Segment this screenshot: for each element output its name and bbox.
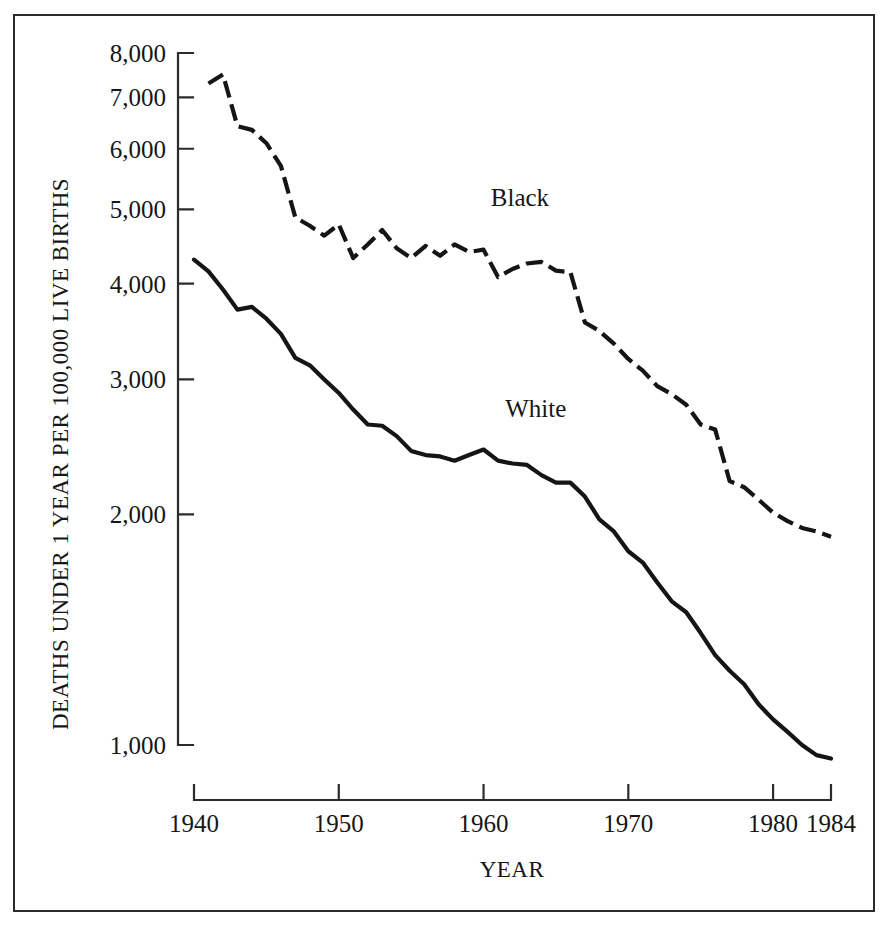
x-axis-tick-labels: 194019501960197019801984: [169, 810, 857, 837]
y-axis: 1,0002,0003,0004,0005,0006,0007,0008,000: [110, 40, 193, 759]
x-tick-label: 1940: [169, 810, 219, 837]
x-tick-label: 1950: [314, 810, 364, 837]
y-tick-label: 2,000: [110, 501, 166, 528]
y-tick-label: 1,000: [110, 732, 166, 759]
y-tick-label: 8,000: [110, 40, 166, 67]
x-tick-label: 1970: [603, 810, 653, 837]
y-tick-label: 5,000: [110, 196, 166, 223]
y-tick-label: 6,000: [110, 136, 166, 163]
x-tick-label: 1984: [806, 810, 857, 837]
y-tick-label: 4,000: [110, 271, 166, 298]
infant-mortality-line-chart: 1,0002,0003,0004,0005,0006,0007,0008,000…: [0, 0, 888, 926]
series-label-white: White: [505, 395, 566, 422]
x-axis-title: YEAR: [480, 857, 545, 882]
y-axis-tick-labels: 1,0002,0003,0004,0005,0006,0007,0008,000: [110, 40, 166, 759]
x-axis-line: [194, 785, 831, 800]
x-tick-label: 1980: [748, 810, 798, 837]
y-tick-label: 7,000: [110, 84, 166, 111]
y-axis-title: DEATHS UNDER 1 YEAR PER 100,000 LIVE BIR…: [48, 178, 73, 730]
chart-plot-area: 1,0002,0003,0004,0005,0006,0007,0008,000…: [0, 0, 888, 926]
series-line-black: [208, 74, 831, 536]
x-axis: 194019501960197019801984: [169, 785, 857, 837]
y-axis-line: [178, 53, 193, 745]
x-tick-label: 1960: [459, 810, 509, 837]
series-label-black: Black: [491, 184, 550, 211]
y-tick-label: 3,000: [110, 366, 166, 393]
series-line-white: [194, 260, 831, 759]
